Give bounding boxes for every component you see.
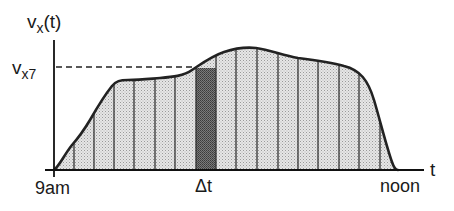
delta-t-column: [196, 68, 216, 171]
vx7-label: vx7: [12, 57, 37, 82]
end-time-label: noon: [380, 176, 420, 196]
y-axis-label: vx(t): [27, 11, 61, 36]
start-time-label: 9am: [35, 178, 70, 198]
x-axis-label: t: [430, 159, 436, 180]
area-under-curve: [50, 40, 410, 171]
velocity-time-diagram: vx(t) vx7 t 9am noon Δt: [0, 0, 454, 211]
delta-t-label: Δt: [195, 176, 212, 196]
